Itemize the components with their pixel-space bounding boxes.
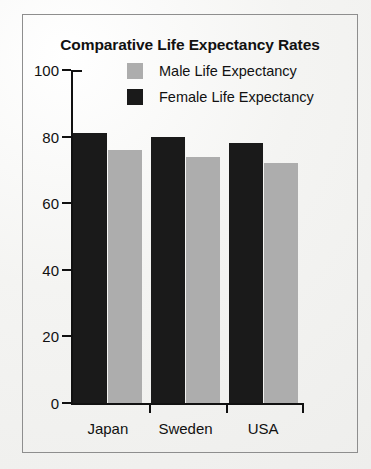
bar-male-usa bbox=[264, 163, 298, 403]
x-axis-tick bbox=[149, 405, 151, 413]
plot-area: 020406080100 JapanSwedenUSA bbox=[71, 70, 304, 403]
chart-title: Comparative Life Expectancy Rates bbox=[22, 36, 358, 54]
y-axis-tick bbox=[62, 136, 71, 138]
x-axis-tick bbox=[226, 405, 228, 413]
bar-male-sweden bbox=[186, 157, 220, 403]
x-axis-line bbox=[71, 403, 304, 405]
bar-chart: Comparative Life Expectancy Rates Male L… bbox=[0, 0, 371, 469]
y-axis-tick-label: 20 bbox=[42, 328, 59, 345]
bar-female-sweden bbox=[151, 137, 185, 403]
y-axis-tick-label: 0 bbox=[51, 395, 59, 412]
y-axis-top-cap bbox=[73, 70, 82, 72]
x-axis-label-sweden: Sweden bbox=[158, 420, 212, 437]
bar-female-usa bbox=[229, 143, 263, 403]
x-axis-label-japan: Japan bbox=[87, 420, 128, 437]
y-axis-tick-label: 60 bbox=[42, 195, 59, 212]
y-axis-tick-label: 100 bbox=[34, 62, 59, 79]
y-axis-tick-label: 40 bbox=[42, 261, 59, 278]
y-axis-tick bbox=[62, 335, 71, 337]
y-axis-tick bbox=[62, 402, 71, 404]
y-axis-tick-label: 80 bbox=[42, 128, 59, 145]
bar-male-japan bbox=[108, 150, 142, 403]
x-axis-end-cap bbox=[302, 405, 304, 413]
y-axis-tick bbox=[62, 69, 71, 71]
y-axis-tick bbox=[62, 202, 71, 204]
x-axis-label-usa: USA bbox=[248, 420, 279, 437]
bar-female-japan bbox=[73, 133, 107, 403]
y-axis-tick bbox=[62, 269, 71, 271]
